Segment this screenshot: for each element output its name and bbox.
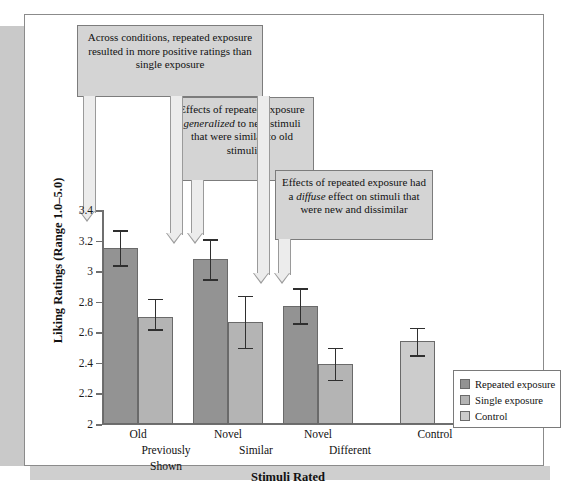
error-bar-line (210, 239, 212, 279)
error-bar-line (155, 299, 157, 330)
y-tick-mark (96, 424, 102, 426)
x-category-label: Shown (131, 459, 201, 474)
error-bar-line (417, 328, 419, 356)
error-bar-cap-lower (410, 355, 425, 357)
y-tick-mark (96, 363, 102, 365)
callout-2-text-before: Effects of repeated exposure (179, 103, 304, 115)
x-axis-category-labels: OldPreviouslyShownNovelSimilarNovelDiffe… (103, 427, 475, 479)
error-bar-cap-upper (410, 328, 425, 330)
x-category-label: Similar (221, 443, 291, 458)
figure-container: Across conditions, repeated exposure res… (0, 0, 568, 493)
y-axis-title: Liking Ratings (Range 1.0–5.0) (51, 166, 66, 356)
error-bar-cap-upper (238, 296, 253, 298)
x-category-label: Previously (131, 443, 201, 458)
x-category-label: Old (103, 427, 173, 442)
error-bar-cap-lower (113, 265, 128, 267)
error-bar-cap-upper (113, 230, 128, 232)
chart-legend: Repeated exposureSingle exposureControl (453, 370, 561, 428)
y-tick-label: 3.2 (79, 235, 93, 247)
x-category-label: Different (315, 443, 385, 458)
y-tick-mark (96, 393, 102, 395)
legend-item: Control (460, 408, 555, 424)
y-tick-label: 3.4 (79, 204, 93, 216)
y-tick-label: 2.4 (79, 357, 93, 369)
error-bar-cap-upper (203, 239, 218, 241)
legend-label: Repeated exposure (475, 379, 555, 390)
error-bar-line (300, 288, 302, 323)
error-bar-cap-upper (148, 299, 163, 301)
plot-area (103, 210, 475, 424)
error-bar-cap-upper (328, 348, 343, 350)
bar (103, 248, 138, 424)
error-bar-line (120, 230, 122, 265)
legend-item: Single exposure (460, 392, 555, 408)
callout-1-text: Across conditions, repeated exposure res… (88, 31, 252, 70)
error-bar-line (335, 348, 337, 380)
y-tick-mark (96, 332, 102, 334)
callout-2-italic: generalized (183, 117, 234, 129)
error-bar-cap-lower (148, 329, 163, 331)
y-tick-label: 2.8 (79, 296, 93, 308)
error-bar-line (245, 296, 247, 348)
bar (193, 259, 228, 424)
legend-label: Single exposure (475, 395, 543, 406)
y-tick-label: 2.6 (79, 326, 93, 338)
y-tick-mark (96, 241, 102, 243)
y-tick-label: 3 (87, 265, 93, 277)
x-category-label: Novel (193, 427, 263, 442)
y-tick-label: 2 (87, 418, 93, 430)
error-bar-cap-lower (203, 279, 218, 281)
error-bar-cap-lower (238, 348, 253, 350)
figure-frame: Across conditions, repeated exposure res… (24, 14, 544, 466)
error-bar-cap-upper (293, 288, 308, 290)
callout-box-1: Across conditions, repeated exposure res… (77, 25, 263, 97)
y-tick-mark (96, 271, 102, 273)
callout-box-2: Effects of repeated exposure generalized… (170, 97, 314, 181)
error-bar-cap-lower (293, 323, 308, 325)
x-category-label: Novel (283, 427, 353, 442)
legend-label: Control (475, 411, 507, 422)
bar (138, 317, 173, 424)
legend-swatch-icon (460, 395, 470, 405)
y-tick-mark (96, 210, 102, 212)
y-tick-label: 2.2 (79, 387, 93, 399)
x-category-label: Control (400, 427, 470, 442)
y-axis-tick-labels: 22.22.42.62.833.23.4 (61, 210, 93, 424)
legend-swatch-icon (460, 411, 470, 421)
error-bar-cap-lower (328, 380, 343, 382)
legend-item: Repeated exposure (460, 376, 555, 392)
callout-3-italic: diffuse (296, 190, 325, 202)
y-tick-mark (96, 302, 102, 304)
legend-swatch-icon (460, 379, 470, 389)
